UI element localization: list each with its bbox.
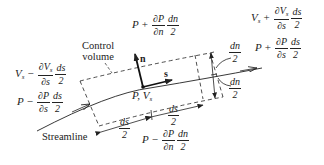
eq-num-sub: s [50,66,53,74]
eq-num: ∂P [162,129,175,141]
ds-half-right-label: ds2 [167,104,180,127]
eq-num: ∂P [275,37,288,49]
eq-base: V [15,67,22,79]
eq-pressure-bottom: P−∂P∂ndn2 [142,129,190,152]
ds-half-right-fraction: ds2 [168,104,179,127]
ds-num: ds [168,104,179,116]
eq-velocity-right: Vs+∂Vs∂sds2 [251,6,303,31]
center-point-label: P, Vs [132,90,152,103]
eq-op: + [263,11,269,23]
eq-fraction: ∂Vs∂s [274,6,290,31]
eq-fraction-2: dn2 [167,14,179,37]
eq-num: ∂Vs [38,62,54,76]
eq-base: P [132,18,139,30]
streamline-inlet-arrow [72,104,90,112]
s-axis-label: s [164,69,168,79]
eq-sub: s [22,73,25,81]
ds-num: ds [119,117,130,129]
eq-den: ∂s [41,76,50,87]
eq-op: − [27,67,33,79]
eq-den2: 2 [181,141,186,152]
eq-num-text: ∂V [275,5,286,16]
eq-sub: s [258,17,261,25]
eq-num-sub: s [286,10,289,18]
eq-base: P [17,95,24,107]
control-volume-label: Control volume [82,40,114,62]
eq-fraction: ∂Vs∂s [38,62,54,87]
control-volume-line-2: volume [82,51,114,62]
eq-den2: 2 [171,26,176,37]
dn-den: 2 [233,53,238,64]
eq-num: ∂Vs [274,6,290,20]
eq-fraction-2: ds2 [291,7,302,30]
eq-velocity-left: Vs−∂Vs∂sds2 [15,62,67,87]
eq-den2: 2 [55,103,60,114]
eq-op: − [27,95,33,107]
dn-den: 2 [233,89,238,100]
control-volume-leader [105,63,112,73]
eq-num2: dn [177,129,189,141]
eq-op: + [265,41,271,53]
eq-num2: ds [52,91,63,103]
control-volume-line-1: Control [82,40,114,51]
eq-fraction-2: ds2 [52,91,63,114]
eq-fraction-2: dn2 [177,129,189,152]
eq-den: ∂n [164,141,174,152]
eq-base: P [255,41,262,53]
dn-half-bottom-fraction: dn2 [229,77,241,100]
eq-den: ∂n [154,26,164,37]
s-axis-arrow [143,80,172,87]
eq-num2: ds [55,63,66,75]
center-point-sub: s [150,95,153,103]
streamline-label: Streamline [42,131,88,142]
eq-num-text: ∂V [39,61,50,72]
dn-num: dn [229,77,241,89]
eq-num: ∂P [152,14,165,26]
eq-pressure-left: P−∂P∂sds2 [17,91,64,114]
n-axis-label: n [140,54,146,64]
eq-op: + [142,18,148,30]
eq-base: V [251,11,258,23]
eq-den: ∂s [277,49,286,60]
dn-half-top-fraction: dn2 [229,41,241,64]
eq-den2: 2 [58,75,63,86]
center-point-text: P, V [132,89,150,101]
dn-num: dn [229,41,241,53]
eq-den2: 2 [294,19,299,30]
ds-den: 2 [122,129,127,140]
eq-op: − [152,133,158,145]
eq-fraction: ∂P∂n [152,14,165,37]
eq-den: ∂s [39,103,48,114]
eq-num2: ds [291,7,302,19]
ds-den: 2 [171,116,176,127]
eq-den2: 2 [293,49,298,60]
eq-base: P [142,133,149,145]
eq-fraction: ∂P∂n [162,129,175,152]
eq-num: ∂P [37,91,50,103]
eq-num2: dn [167,14,179,26]
dn-half-bottom-label: dn2 [228,77,242,100]
eq-fraction-2: ds2 [55,63,66,86]
eq-num2: ds [290,37,301,49]
ds-half-left-label: ds2 [118,117,131,140]
eq-pressure-top: P+∂P∂ndn2 [132,14,180,37]
ds-half-left-fraction: ds2 [119,117,130,140]
eq-fraction: ∂P∂s [275,37,288,60]
eq-den: ∂s [277,20,286,31]
dn-half-top-label: dn2 [228,41,242,64]
eq-pressure-right: P+∂P∂sds2 [255,37,302,60]
eq-fraction: ∂P∂s [37,91,50,114]
eq-fraction-2: ds2 [290,37,301,60]
